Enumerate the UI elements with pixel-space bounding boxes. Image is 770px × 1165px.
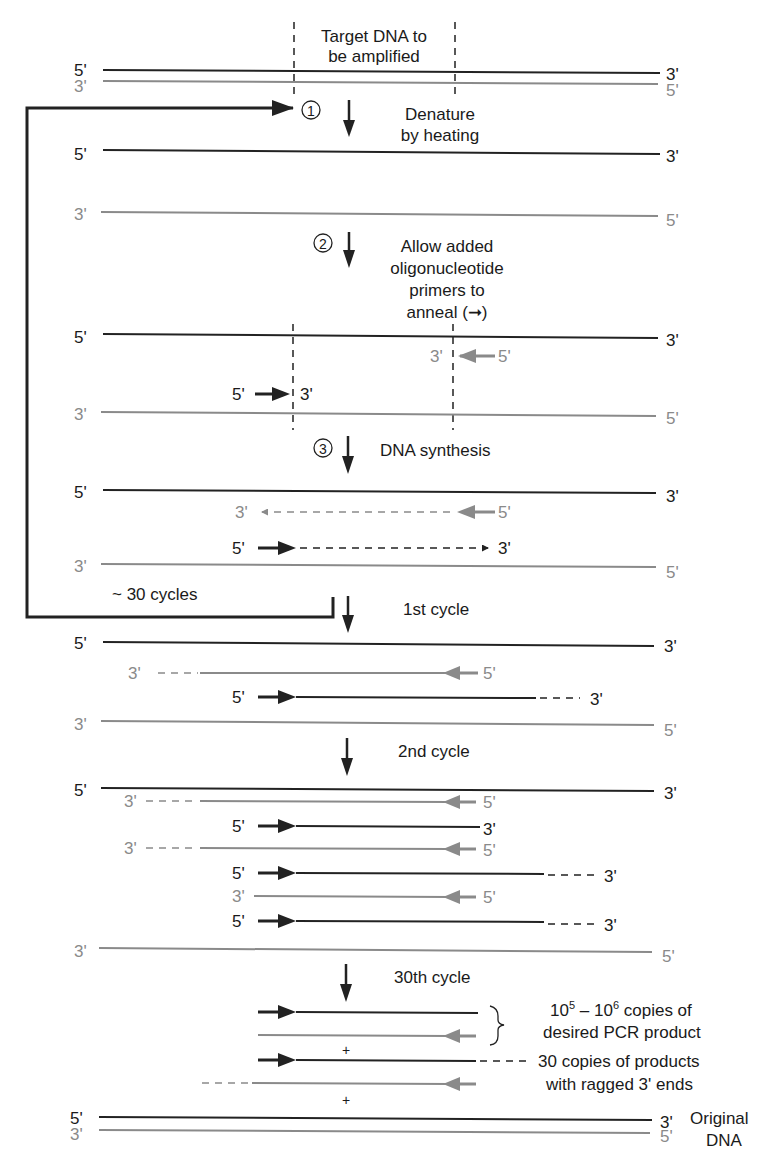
svg-text:3: 3 — [319, 441, 327, 457]
svg-text:with ragged 3' ends: with ragged 3' ends — [545, 1075, 693, 1094]
step-2: 2 Allow added oligonucleotide primers to… — [314, 232, 504, 322]
svg-text:3': 3' — [74, 77, 87, 96]
svg-text:DNA: DNA — [706, 1131, 743, 1150]
svg-text:5': 5' — [74, 145, 87, 164]
svg-text:30 copies of products: 30 copies of products — [538, 1052, 700, 1071]
svg-text:2nd cycle: 2nd cycle — [398, 742, 470, 761]
pcr-diagram: Target DNA to be amplified 5' 3' 3' 5' ~… — [0, 0, 770, 1165]
svg-text:Allow added: Allow added — [401, 237, 494, 256]
svg-text:5': 5' — [74, 483, 87, 502]
svg-text:3': 3' — [664, 784, 677, 803]
annealed-strands: 5' 3' 3' 5' 5' 3' 3' 5' — [74, 324, 679, 430]
svg-text:5': 5' — [666, 563, 679, 582]
svg-text:5': 5' — [232, 912, 245, 931]
synthesis-strands: 5' 3' 3' 5' 5' 3' 3' 5' — [74, 483, 679, 582]
svg-text:3': 3' — [128, 664, 141, 683]
svg-text:3': 3' — [74, 557, 87, 576]
svg-text:+: + — [342, 1042, 350, 1058]
svg-text:3': 3' — [124, 792, 137, 811]
svg-text:5': 5' — [498, 347, 511, 366]
svg-text:5': 5' — [74, 328, 87, 347]
svg-text:5': 5' — [232, 385, 245, 404]
desired-count: 105 – 106 copies of — [550, 999, 692, 1020]
cycle-2: 2nd cycle 5' 3' 3' 5' 5' 3' 3' 5' 5' 3' … — [74, 738, 677, 966]
target-region: Target DNA to be amplified — [294, 22, 455, 98]
cycle-loop-arrow: ~ 30 cycles — [27, 100, 333, 617]
target-label-2: be amplified — [328, 47, 420, 66]
cycle-30: 30th cycle 105 – 106 copies of desired P… — [70, 964, 749, 1150]
svg-text:oligonucleotide: oligonucleotide — [390, 259, 503, 278]
svg-text:1: 1 — [307, 103, 315, 119]
svg-text:anneal (➞): anneal (➞) — [406, 303, 487, 322]
svg-text:3': 3' — [74, 715, 87, 734]
denatured-strands: 5' 3' 3' 5' — [74, 145, 679, 230]
step-3: 3 DNA synthesis — [314, 436, 491, 474]
svg-text:5': 5' — [666, 211, 679, 230]
svg-text:5': 5' — [664, 721, 677, 740]
svg-text:3': 3' — [235, 503, 248, 522]
svg-text:3': 3' — [74, 942, 87, 961]
svg-text:5': 5' — [666, 409, 679, 428]
svg-text:by heating: by heating — [401, 126, 479, 145]
svg-text:2: 2 — [319, 236, 327, 252]
svg-text:primers to: primers to — [409, 281, 485, 300]
svg-text:5': 5' — [74, 781, 87, 800]
svg-text:DNA synthesis: DNA synthesis — [380, 441, 491, 460]
svg-text:3': 3' — [232, 887, 245, 906]
original-dsdna-top: 5' 3' 3' 5' — [74, 61, 679, 100]
svg-text:5': 5' — [483, 888, 496, 907]
step-1: 1 Denature by heating — [302, 100, 479, 145]
svg-text:3': 3' — [666, 487, 679, 506]
svg-text:Denature: Denature — [405, 105, 475, 124]
svg-text:3': 3' — [666, 331, 679, 350]
svg-text:5': 5' — [483, 841, 496, 860]
svg-text:3': 3' — [74, 205, 87, 224]
svg-text:5': 5' — [483, 664, 496, 683]
svg-text:desired PCR product: desired PCR product — [543, 1023, 701, 1042]
svg-text:3': 3' — [430, 347, 443, 366]
cycles-loop-label: ~ 30 cycles — [112, 585, 198, 604]
svg-text:3': 3' — [664, 637, 677, 656]
svg-text:+: + — [342, 1092, 350, 1108]
svg-text:5': 5' — [662, 947, 675, 966]
svg-text:3': 3' — [590, 690, 603, 709]
svg-text:5': 5' — [660, 1127, 673, 1146]
svg-text:5': 5' — [232, 688, 245, 707]
svg-text:3': 3' — [124, 839, 137, 858]
svg-text:5': 5' — [74, 634, 87, 653]
svg-text:3': 3' — [666, 147, 679, 166]
svg-text:3': 3' — [74, 405, 87, 424]
svg-text:Original: Original — [690, 1109, 749, 1128]
svg-text:3': 3' — [483, 820, 496, 839]
svg-text:5': 5' — [666, 81, 679, 100]
svg-text:5': 5' — [498, 503, 511, 522]
svg-text:5': 5' — [232, 817, 245, 836]
svg-text:5': 5' — [232, 539, 245, 558]
svg-text:5': 5' — [232, 864, 245, 883]
svg-text:5': 5' — [483, 793, 496, 812]
svg-text:30th cycle: 30th cycle — [394, 968, 471, 987]
svg-text:3': 3' — [498, 539, 511, 558]
svg-text:1st cycle: 1st cycle — [403, 600, 469, 619]
svg-text:3': 3' — [604, 916, 617, 935]
svg-text:3': 3' — [604, 867, 617, 886]
svg-text:3': 3' — [70, 1125, 83, 1144]
svg-text:3': 3' — [300, 385, 313, 404]
target-label-1: Target DNA to — [321, 27, 427, 46]
